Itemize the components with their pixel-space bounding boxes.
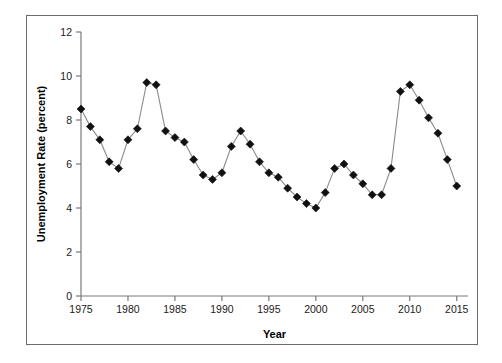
data-point-marker [86,123,94,131]
y-tick-label: 4 [66,202,72,214]
x-tick-label: 2000 [304,303,328,315]
data-point-marker [312,204,320,212]
x-tick-label: 2010 [398,303,422,315]
data-point-marker [171,134,179,142]
y-tick-label: 2 [66,246,72,258]
unemployment-rate-line [81,83,457,208]
y-tick-label: 8 [66,114,72,126]
x-tick-label: 1990 [210,303,234,315]
data-point-marker [180,138,188,146]
data-point-marker [378,191,386,199]
unemployment-rate-line-chart: 024681012 197519801985199019952000200520… [27,16,476,343]
x-axis-title: Year [263,328,287,340]
x-tick-label: 1995 [257,303,281,315]
x-tick-label: 2015 [445,303,469,315]
data-point-marker [227,142,235,150]
data-point-marker [96,136,104,144]
data-point-marker [143,79,151,87]
x-tick-label: 1980 [116,303,140,315]
x-tick-label: 1985 [163,303,187,315]
chart-figure: 024681012 197519801985199019952000200520… [0,0,502,363]
y-tick-label: 12 [60,26,72,38]
y-tick-label: 6 [66,158,72,170]
y-axis: 024681012 [60,26,81,302]
chart-frame: 024681012 197519801985199019952000200520… [26,15,478,345]
data-point-marker [199,171,207,179]
data-point-marker [77,105,85,113]
data-point-marker [162,127,170,135]
data-point-marker [396,87,404,95]
data-point-marker [105,158,113,166]
y-axis-title: Unemployment Rate (percent) [35,85,47,242]
data-point-marker [302,200,310,208]
data-point-marker [209,175,217,183]
y-tick-label: 0 [66,290,72,302]
data-point-marker [443,156,451,164]
data-point-marker [425,114,433,122]
data-point-marker [434,129,442,137]
y-tick-label: 10 [60,70,72,82]
x-axis: 197519801985199019952000200520102015 [69,296,468,315]
data-point-marker [152,81,160,89]
data-point-marker [190,156,198,164]
data-point-marker [246,140,254,148]
data-point-marker [387,164,395,172]
data-point-marker [415,96,423,104]
data-point-marker [331,164,339,172]
data-point-marker [453,182,461,190]
data-point-marker [321,189,329,197]
data-point-marker [218,169,226,177]
x-tick-label: 2005 [351,303,375,315]
unemployment-rate-markers [77,79,461,212]
x-tick-label: 1975 [69,303,93,315]
data-point-marker [237,127,245,135]
data-point-marker [406,81,414,89]
data-point-marker [115,164,123,172]
